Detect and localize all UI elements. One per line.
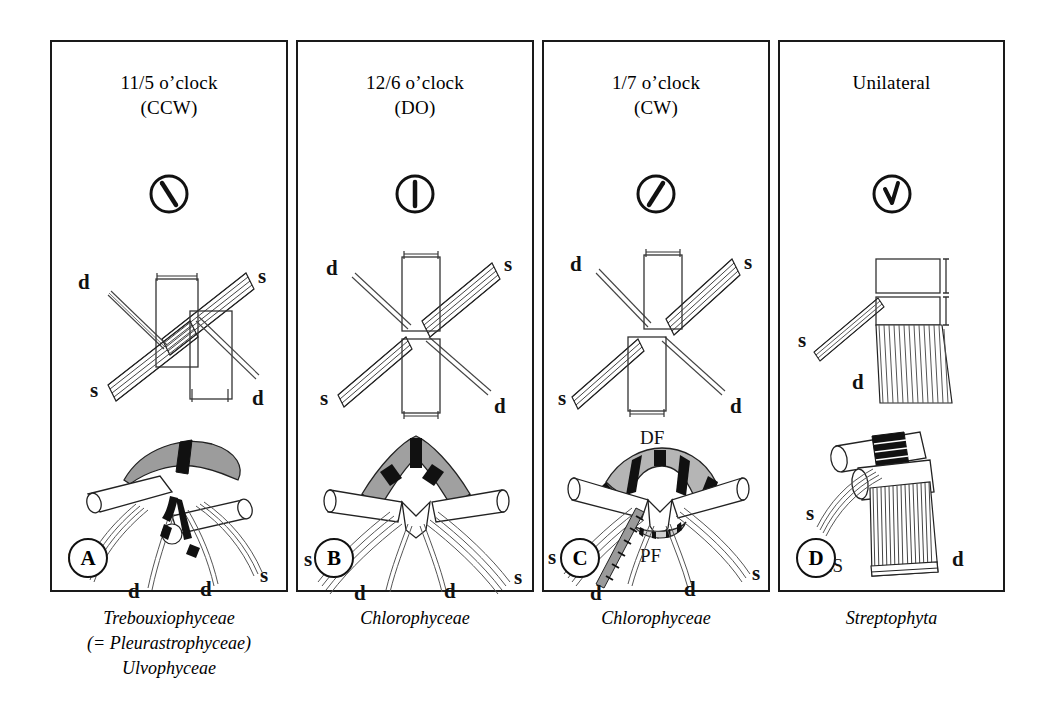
panel-b-3d-label-d-right: d — [444, 579, 456, 603]
clock-slash-icon — [634, 172, 678, 216]
panel-a-label-s-lower: s — [90, 378, 98, 402]
panel-c-label-s-lower: s — [558, 386, 566, 410]
panel-b-label-s-lower: s — [320, 386, 328, 410]
panel-c-3d-label-s-right: s — [752, 561, 760, 585]
panel-b-badge: B — [314, 538, 354, 578]
caption-d: Streptophyta — [778, 606, 1005, 631]
caption-a: Trebouxiophyceae (= Pleurastrophyceae) U… — [50, 606, 288, 681]
panel-b-title-line1: 12/6 o’clock — [366, 72, 464, 93]
caption-c-line1: Chlorophyceae — [542, 606, 770, 631]
panel-c: 1/7 o’clock (CW) — [542, 40, 770, 592]
panel-a-label-d-lower: d — [252, 386, 264, 410]
panel-c-label-d-lower: d — [730, 394, 742, 418]
flagellar-apparatus-figure: 11/5 o’clock (CCW) — [0, 0, 1053, 702]
panel-b-3d-label-s-left: s — [304, 547, 312, 571]
panel-b-title-line2: (DO) — [298, 95, 532, 120]
panel-c-badge: C — [560, 538, 600, 578]
panel-d-title: Unilateral — [780, 70, 1003, 95]
panel-d-label-d: d — [852, 370, 864, 394]
panel-c-label-s-upper: s — [744, 250, 752, 274]
panel-c-label-df: DF — [640, 427, 664, 448]
panel-b-label-s-upper: s — [504, 252, 512, 276]
panel-d-label-s: s — [798, 328, 806, 352]
panel-a-badge: A — [68, 538, 108, 578]
caption-a-line1: Trebouxiophyceae — [50, 606, 288, 631]
panel-b-label-d-upper: d — [326, 256, 338, 280]
panel-c-label-d-upper: d — [570, 252, 582, 276]
panel-b-label-d-lower: d — [494, 394, 506, 418]
panel-c-title: 1/7 o’clock (CW) — [544, 70, 768, 120]
panel-d: Unilateral — [778, 40, 1005, 592]
panel-a-top-diagram: d s s d — [52, 237, 286, 422]
caption-b-line1: Chlorophyceae — [296, 606, 534, 631]
panel-c-top-diagram: d s s d — [544, 237, 768, 422]
panel-d-3d-label-s: s — [806, 501, 814, 525]
panel-a-title-line1: 11/5 o’clock — [120, 72, 217, 93]
caption-c: Chlorophyceae — [542, 606, 770, 631]
clock-vee-icon — [870, 172, 914, 216]
panel-a-3d-label-d-left: d — [128, 579, 140, 603]
panel-d-top-diagram: s d — [780, 237, 1003, 422]
panel-c-label-pf: PF — [640, 545, 661, 566]
caption-b: Chlorophyceae — [296, 606, 534, 631]
panel-b-3d-label-d-left: d — [354, 581, 366, 605]
panel-a-3d-label-s-right: s — [260, 563, 268, 587]
panel-a-label-d-upper: d — [78, 270, 90, 294]
clock-backslash-icon — [147, 172, 191, 216]
panel-d-3d-label-d: d — [952, 547, 964, 571]
panel-c-title-line1: 1/7 o’clock — [612, 72, 700, 93]
panel-a-title: 11/5 o’clock (CCW) — [52, 70, 286, 120]
panel-a: 11/5 o’clock (CCW) — [50, 40, 288, 592]
caption-a-line3: Ulvophyceae — [50, 656, 288, 681]
panel-c-3d-label-d-right: d — [684, 577, 696, 601]
panel-c-title-line2: (CW) — [544, 95, 768, 120]
panel-b: 12/6 o’clock (DO) — [296, 40, 534, 592]
panel-a-3d-label-d-right: d — [200, 577, 212, 601]
panel-c-3d-label-s-left: s — [548, 545, 556, 569]
panel-a-title-line2: (CCW) — [52, 95, 286, 120]
panel-b-top-diagram: d s s d — [298, 237, 532, 422]
panel-b-3d-label-s-right: s — [514, 565, 522, 589]
panel-a-label-s-upper: s — [258, 264, 266, 288]
panel-d-title-line1: Unilateral — [853, 72, 931, 93]
panel-b-title: 12/6 o’clock (DO) — [298, 70, 532, 120]
panel-c-3d-label-d-left: d — [590, 581, 602, 605]
clock-vertical-icon — [393, 172, 437, 216]
panel-d-badge: D — [796, 538, 836, 578]
caption-a-line2: (= Pleurastrophyceae) — [50, 631, 288, 656]
caption-d-line1: Streptophyta — [778, 606, 1005, 631]
